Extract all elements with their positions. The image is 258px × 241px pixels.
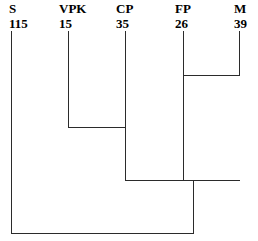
taxon-count-cp: 35 xyxy=(116,17,129,30)
cladogram-figure: S115VPK15CP35FP26M39 xyxy=(0,0,258,241)
cladogram-tree-drawing xyxy=(0,0,258,241)
taxon-count-fp: 26 xyxy=(175,17,188,30)
taxon-name-cp: CP xyxy=(116,2,133,15)
taxon-name-m: M xyxy=(234,2,246,15)
taxon-count-s: 115 xyxy=(9,17,28,30)
taxon-count-m: 39 xyxy=(234,17,247,30)
taxon-name-fp: FP xyxy=(175,2,191,15)
taxon-name-s: S xyxy=(9,2,16,15)
tree-branch-lines xyxy=(12,32,240,234)
taxon-name-vpk: VPK xyxy=(59,2,86,15)
taxon-count-vpk: 15 xyxy=(59,17,72,30)
